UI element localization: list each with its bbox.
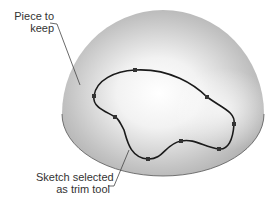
label-line: Sketch selected [36, 171, 110, 183]
label-sketch-trim-tool: Sketch selected as trim tool [36, 171, 110, 195]
label-line: Piece to [12, 10, 54, 22]
hemisphere [62, 10, 264, 176]
label-line: as trim tool [36, 183, 110, 195]
label-piece-to-keep: Piece to keep [12, 10, 54, 34]
label-line: keep [12, 22, 54, 34]
